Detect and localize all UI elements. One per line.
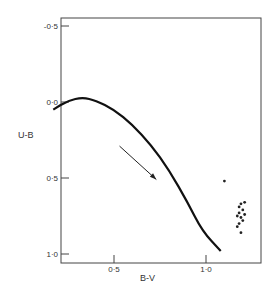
y-tick-label: 0·0 bbox=[46, 98, 58, 107]
x-axis-label: B-V bbox=[140, 273, 155, 283]
chart: -0·50·00·51·00·51·0 U-B B-V bbox=[0, 0, 275, 293]
y-tick-label: 0·5 bbox=[46, 174, 58, 183]
star-point bbox=[236, 225, 239, 228]
x-tick-label: 0·5 bbox=[108, 265, 120, 274]
main-sequence-curve bbox=[53, 98, 220, 251]
star-point bbox=[243, 201, 246, 204]
y-axis-label: U-B bbox=[18, 130, 34, 140]
star-point bbox=[240, 202, 243, 205]
x-tick-label: 1·0 bbox=[200, 265, 212, 274]
star-point bbox=[240, 216, 243, 219]
star-point bbox=[241, 219, 244, 222]
star-point bbox=[238, 222, 241, 225]
star-point bbox=[236, 215, 239, 218]
star-points bbox=[223, 180, 246, 234]
star-point bbox=[238, 205, 241, 208]
y-tick-label: 1·0 bbox=[46, 250, 58, 259]
star-point bbox=[223, 180, 226, 183]
axis-ticks bbox=[61, 26, 206, 263]
star-point bbox=[243, 213, 246, 216]
star-point bbox=[240, 231, 243, 234]
tick-labels: -0·50·00·51·00·51·0 bbox=[44, 22, 213, 274]
star-point bbox=[241, 209, 244, 212]
reddening-arrow-icon bbox=[120, 146, 157, 179]
star-point bbox=[238, 212, 241, 215]
y-tick-label: -0·5 bbox=[44, 22, 59, 31]
plot-frame bbox=[61, 18, 261, 263]
